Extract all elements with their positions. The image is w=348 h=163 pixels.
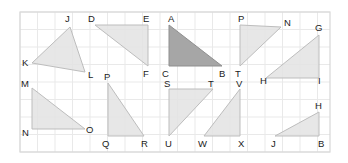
vertex-label-stu-s: S [164, 78, 170, 89]
vertex-label-ghi-g: G [315, 22, 322, 33]
vertex-label-pqr-p: P [104, 71, 110, 82]
vertex-label-def-e: E [143, 13, 149, 24]
vertex-label-mno-n: N [22, 127, 29, 138]
vertex-label-stu-u: U [165, 138, 172, 149]
figure-canvas: JKLDEFACBPTNGHIMNOPQRSTUVWXHJB [0, 0, 348, 163]
vertex-label-stu-t: T [208, 78, 214, 89]
vertex-label-vwx-v: V [236, 78, 243, 89]
vertex-label-def-d: D [88, 13, 95, 24]
vertex-label-mno-m: M [21, 78, 29, 89]
vertex-label-ghi-i: I [318, 75, 321, 86]
vertex-label-jhb-h: H [315, 100, 322, 111]
vertex-label-jhb-b: B [318, 138, 324, 149]
vertex-label-jkl-k: K [22, 57, 29, 68]
vertex-label-ptn-n: N [284, 17, 291, 28]
vertex-label-pqr-q: Q [102, 138, 109, 149]
triangle-grid-figure: JKLDEFACBPTNGHIMNOPQRSTUVWXHJB [0, 0, 348, 163]
vertex-label-pqr-r: R [141, 138, 148, 149]
vertex-label-ptn-p: P [238, 13, 244, 24]
vertex-label-mno-o: O [86, 124, 93, 135]
vertex-label-vwx-w: W [198, 138, 207, 149]
vertex-label-abc-b: B [219, 68, 225, 79]
vertex-label-jkl-l: L [88, 69, 93, 80]
vertex-label-vwx-x: X [238, 138, 245, 149]
vertex-label-jkl-j: J [65, 13, 70, 24]
vertex-label-abc-a: A [168, 13, 175, 24]
vertex-label-def-f: F [143, 68, 149, 79]
vertex-label-ghi-h: H [260, 75, 267, 86]
vertex-label-jhb-j: J [271, 138, 276, 149]
